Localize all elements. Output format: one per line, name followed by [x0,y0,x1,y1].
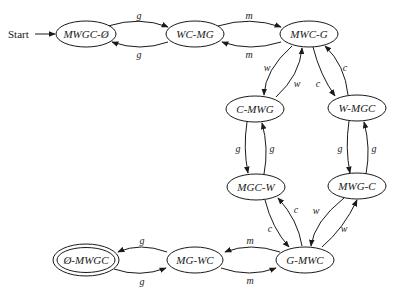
edge-label: m [246,235,253,246]
state-label: MWC-G [289,28,327,40]
edge-label: c [316,78,321,89]
edge-gmwc-to-mgwc [225,247,280,252]
edge-label: c [294,204,299,215]
start-label: Start [8,28,29,40]
state-label: MWGC-Ø [62,28,109,40]
node-c-mwg: C-MWG [226,96,284,122]
state-label: MG-WC [175,254,214,266]
edge-wcmg-to-mwgc [112,42,168,47]
edge-label: w [264,62,271,73]
edge-gmwc-to-mgcw [278,198,302,246]
edge-label: g [137,10,142,21]
node-mwc-g: MWC-G [280,21,338,47]
state-label: G-MWC [286,254,324,266]
node-empty-mwgc-accepting: Ø-MWGC [53,244,119,276]
node-g-mwc: G-MWC [276,247,334,273]
edge-wcmg-to-mwcg [218,21,281,27]
node-mgc-w: MGC-W [227,174,285,200]
edge-label: c [268,223,273,234]
node-wc-mg: WC-MG [166,21,224,47]
state-diagram: Start g g m m w w c c g g g g [0,0,403,291]
state-label: MGC-W [236,181,275,193]
edge-mgcw-to-cmwg [262,123,266,174]
edge-label: g [140,276,145,287]
node-mg-wc: MG-WC [167,247,223,273]
edge-mgwc-to-empty [118,247,167,252]
state-label: WC-MG [176,28,213,40]
edge-gmwc-to-mwgc [322,200,357,247]
edge-mwgc-to-wcmg [108,21,168,27]
edge-cmwg-to-mwcg [276,48,302,97]
edge-label: g [236,143,241,154]
edge-cmwg-to-mgcw [245,122,248,173]
edge-label: m [245,10,252,21]
edge-label: w [341,223,348,234]
edges: g g m m w w c c g g g g c c w [108,10,377,287]
start-indicator: Start [8,28,55,40]
edge-label: m [246,275,253,286]
edge-mwgc-to-wmgc [364,122,368,174]
edge-label: m [245,49,252,60]
state-label: MWG-C [337,180,376,192]
node-mwg-c: MWG-C [328,173,386,199]
node-w-mgc: W-MGC [328,95,386,121]
edge-mwcg-to-wmgc [313,47,335,96]
state-label: C-MWG [236,103,273,115]
edge-label: c [343,62,348,73]
edge-label: w [294,78,301,89]
edge-label: g [270,143,275,154]
edge-label: g [140,235,145,246]
node-mwgc-empty: MWGC-Ø [56,21,116,47]
edge-label: g [137,49,142,60]
state-label: W-MGC [339,102,377,114]
edge-empty-to-mgwc [114,268,166,273]
edge-wmgc-to-mwgc [347,121,350,173]
edge-label: g [338,143,343,154]
edge-label: g [372,143,377,154]
state-label: Ø-MWGC [62,254,109,266]
edge-mwcg-to-wcmg [222,42,281,47]
edge-label: w [313,205,320,216]
edge-mgwc-to-gmwc [221,268,276,273]
